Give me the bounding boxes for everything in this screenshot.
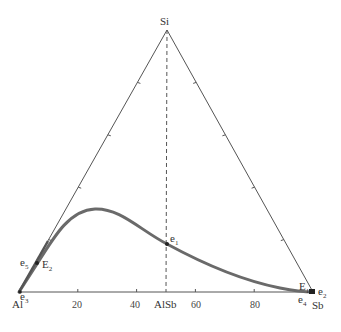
point-label-e4: e4	[298, 293, 307, 308]
point-e1-marker	[165, 242, 169, 246]
left-tick	[137, 82, 140, 83]
left-tick	[108, 135, 111, 136]
point-label-e2: e2	[318, 285, 327, 300]
alsb-join-line	[166, 30, 167, 292]
vertex-label-sb: Sb	[312, 299, 324, 311]
right-tick	[222, 135, 225, 136]
tick-label-60: 60	[191, 299, 201, 310]
point-e5-marker	[35, 261, 39, 265]
right-tick	[252, 187, 255, 188]
tick-label-40: 40	[130, 299, 140, 310]
right-tick	[281, 240, 284, 241]
left-tick	[78, 187, 81, 188]
vertex-label-si: Si	[160, 15, 169, 27]
triangle-frame	[19, 30, 313, 292]
right-side-ticks	[193, 82, 284, 240]
compound-label-alsb: AlSb	[154, 298, 177, 310]
right-tick	[193, 82, 196, 83]
point-e2-marker	[309, 289, 315, 294]
point-label-E2: E2	[42, 258, 53, 273]
left-side-ticks	[49, 82, 141, 240]
tick-label-20: 20	[72, 299, 82, 310]
ternary-diagram: Si Al Sb AlSb 20 40 60 80 e1 e2 e3 e4 e5…	[0, 0, 341, 332]
point-label-e5: e5	[20, 256, 29, 271]
tick-label-80: 80	[250, 299, 260, 310]
